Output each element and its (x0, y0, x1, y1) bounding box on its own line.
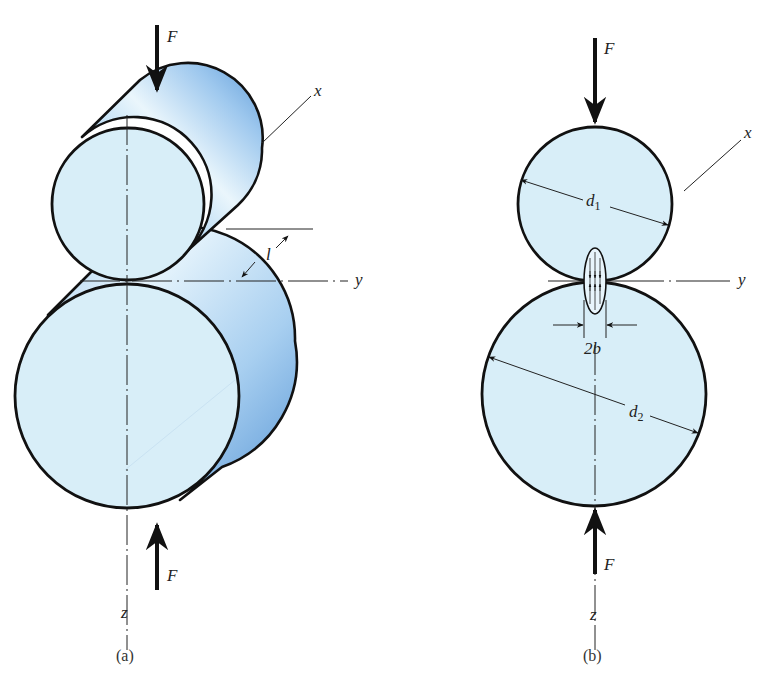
force-label-bottom-b: F (604, 556, 614, 573)
diameter-1-symbol: d (586, 191, 595, 210)
axis-x-label-a: x (314, 82, 322, 99)
panel-a (15, 25, 348, 650)
contact-width-label: 2b (584, 340, 601, 357)
caption-b: (b) (583, 648, 602, 664)
length-dimension-upper (276, 236, 288, 248)
diameter-2-subscript: 2 (638, 410, 644, 424)
diameter-1-subscript: 1 (595, 199, 601, 213)
axis-z-label-a: z (121, 604, 128, 621)
cylinder-contact-diagram (0, 0, 770, 683)
x-axis-a (261, 96, 311, 144)
x-axis-b (684, 140, 741, 191)
diameter-2-label: d2 (629, 403, 644, 423)
caption-a: (a) (116, 648, 134, 664)
axis-y-label-b: y (738, 271, 746, 288)
diameter-2-symbol: d (629, 402, 638, 421)
force-label-top-b: F (604, 40, 614, 57)
force-label-top-a: F (167, 28, 177, 45)
axis-z-label-b: z (590, 606, 597, 623)
small-cylinder-face (52, 128, 204, 280)
contact-pressure-zone (584, 248, 606, 314)
force-label-bottom-a: F (167, 567, 177, 584)
axis-y-label-a: y (355, 271, 363, 288)
axis-x-label-b: x (744, 124, 752, 141)
length-label: l (266, 246, 271, 263)
diameter-1-label: d1 (586, 192, 601, 212)
